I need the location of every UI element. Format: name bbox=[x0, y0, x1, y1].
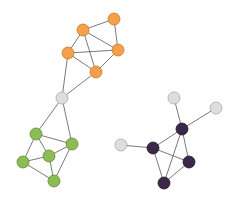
node-green-G2 bbox=[66, 138, 78, 150]
node-grey-H bbox=[56, 92, 68, 104]
nodes-layer bbox=[17, 13, 222, 189]
node-green-G4 bbox=[17, 156, 29, 168]
node-purple-P4 bbox=[158, 177, 170, 189]
node-green-G3 bbox=[43, 150, 55, 162]
node-green-G1 bbox=[30, 128, 42, 140]
node-grey-A bbox=[168, 92, 180, 104]
node-green-G5 bbox=[48, 175, 60, 187]
node-grey-C bbox=[115, 139, 127, 151]
node-purple-P3 bbox=[183, 156, 195, 168]
edge-O3-H bbox=[62, 53, 68, 98]
node-purple-P2 bbox=[147, 142, 159, 154]
node-grey-B bbox=[210, 102, 222, 114]
edge-O3-O4 bbox=[68, 50, 118, 53]
network-graph bbox=[0, 0, 238, 200]
node-orange-O2 bbox=[77, 24, 89, 36]
node-orange-O4 bbox=[112, 44, 124, 56]
node-purple-P1 bbox=[176, 123, 188, 135]
edge-H-G2 bbox=[62, 98, 72, 144]
edge-H-G1 bbox=[36, 98, 62, 134]
node-orange-O3 bbox=[62, 47, 74, 59]
node-orange-O1 bbox=[108, 13, 120, 25]
edge-O5-H bbox=[62, 72, 96, 98]
node-orange-O5 bbox=[90, 66, 102, 78]
